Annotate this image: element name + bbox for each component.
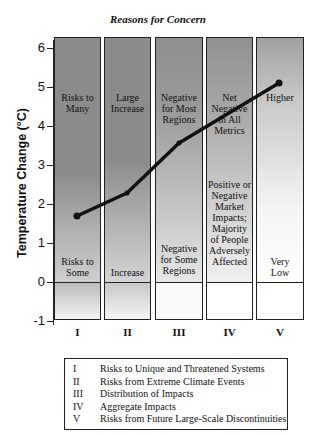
legend-item: IVAggregate Impacts bbox=[73, 401, 287, 414]
x-category-label: III bbox=[155, 326, 203, 338]
legend-item: IRisks to Unique and Threatened Systems bbox=[73, 363, 287, 376]
x-category-label: II bbox=[104, 326, 151, 338]
legend-item: VRisks from Future Large-Scale Discontin… bbox=[73, 413, 287, 426]
legend-item: IIIDistribution of Impacts bbox=[73, 388, 287, 401]
x-category-label: I bbox=[54, 326, 101, 338]
legend-item: IIRisks from Extreme Climate Events bbox=[73, 376, 287, 389]
x-category-label: V bbox=[256, 326, 304, 338]
legend: IRisks to Unique and Threatened Systems … bbox=[64, 358, 288, 430]
x-category-label: IV bbox=[206, 326, 253, 338]
